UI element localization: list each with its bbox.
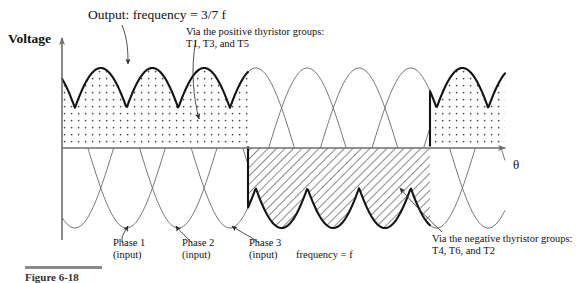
- phase-3-name: Phase 3: [249, 237, 281, 249]
- output-fill-positive-1: [62, 68, 248, 148]
- caption-rule: [25, 266, 102, 269]
- output-fill-positive-3: [430, 68, 505, 148]
- output-fill-negative-2: [248, 148, 430, 228]
- y-axis-label: Voltage: [8, 31, 51, 46]
- negative-thyristor-note: Via the negative thyristor groups: T4, T…: [432, 233, 574, 257]
- x-axis-label: θ: [513, 158, 519, 173]
- positive-thyristor-note: Via the positive thyristor groups: T1, T…: [186, 26, 336, 50]
- phase-3-label: Phase 3 (input): [249, 237, 281, 261]
- phase-3-sub: (input): [249, 249, 281, 261]
- leader-output: [122, 25, 128, 64]
- phase-2-label: Phase 2 (input): [182, 237, 214, 261]
- output-frequency-label: Output: frequency = 3/7 f: [88, 7, 226, 22]
- figure-caption: Figure 6-18: [25, 271, 79, 283]
- phase-2-sub: (input): [182, 249, 214, 261]
- phase-1-sub: (input): [113, 249, 145, 261]
- phase-2-name: Phase 2: [182, 237, 214, 249]
- phase-1-name: Phase 1: [113, 237, 145, 249]
- input-frequency-label: frequency = f: [296, 249, 353, 261]
- phase-1-label: Phase 1 (input): [113, 237, 145, 261]
